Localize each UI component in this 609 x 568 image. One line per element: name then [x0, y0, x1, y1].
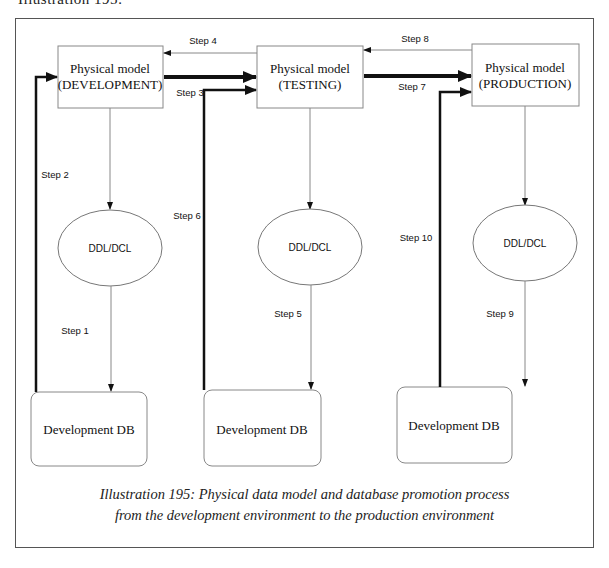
ddl-prod-label: DDL/DCL	[504, 238, 547, 249]
model-box-testing: Physical model (TESTING)	[257, 46, 363, 108]
caption-line2: from the development environment to the …	[0, 505, 609, 526]
model-dev-line2: (DEVELOPMENT)	[58, 77, 163, 92]
db-test-label: Development DB	[216, 422, 308, 437]
ddl-oval-testing: DDL/DCL	[258, 209, 362, 285]
caption-line1: Illustration 195: Physical data model an…	[0, 484, 609, 505]
step2-arrow	[36, 77, 57, 392]
step6-arrow	[204, 90, 256, 390]
db-dev-label: Development DB	[43, 422, 135, 437]
db-box-testing: Development DB	[204, 390, 321, 466]
model-prod-line2: (PRODUCTION)	[479, 76, 571, 91]
step5-label: Step 5	[274, 308, 301, 319]
model-dev-line1: Physical model	[70, 61, 150, 76]
db-box-development: Development DB	[31, 392, 147, 466]
model-box-production: Physical model (PRODUCTION)	[472, 44, 579, 106]
model-test-line1: Physical model	[270, 61, 350, 76]
promotion-diagram: Physical model (DEVELOPMENT) Physical mo…	[0, 0, 609, 568]
step7-label: Step 7	[398, 81, 425, 92]
step1-label: Step 1	[61, 325, 88, 336]
step10-label: Step 10	[400, 232, 433, 243]
ddl-oval-production: DDL/DCL	[473, 205, 577, 281]
model-test-line2: (TESTING)	[279, 77, 342, 92]
model-box-development: Physical model (DEVELOPMENT)	[58, 46, 163, 108]
model-prod-line1: Physical model	[485, 60, 565, 75]
step2-label: Step 2	[41, 169, 68, 180]
step9-label: Step 9	[486, 308, 513, 319]
ddl-oval-development: DDL/DCL	[58, 210, 162, 286]
step10-arrow	[440, 92, 471, 387]
ddl-test-label: DDL/DCL	[289, 242, 332, 253]
db-prod-label: Development DB	[408, 418, 500, 433]
step3-label: Step 3	[176, 87, 203, 98]
step6-label: Step 6	[173, 210, 200, 221]
step8-label: Step 8	[401, 33, 428, 44]
db-box-production: Development DB	[397, 387, 512, 463]
step4-label: Step 4	[189, 35, 216, 46]
ddl-dev-label: DDL/DCL	[89, 243, 132, 254]
figure-caption: Illustration 195: Physical data model an…	[0, 484, 609, 526]
